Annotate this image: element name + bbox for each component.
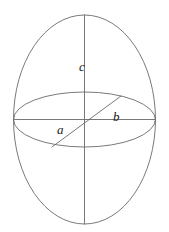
axis-label-a: a: [57, 123, 64, 136]
axis-label-b: b: [113, 110, 120, 123]
ellipsoid-figure: c b a: [0, 0, 169, 232]
axis-label-c: c: [79, 60, 85, 73]
ellipsoid-diagram-canvas: [0, 0, 169, 232]
